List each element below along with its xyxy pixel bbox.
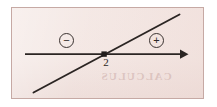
- root-label: 2: [98, 56, 114, 68]
- figure-root: CALCULUS − + 2: [0, 0, 217, 107]
- negative-sign-symbol: −: [59, 33, 74, 48]
- axis-arrowhead: [180, 50, 189, 59]
- positive-sign-glyph: +: [153, 34, 159, 46]
- positive-sign-symbol: +: [149, 33, 164, 48]
- number-line-diagram: [0, 0, 217, 107]
- negative-sign-glyph: −: [63, 34, 69, 46]
